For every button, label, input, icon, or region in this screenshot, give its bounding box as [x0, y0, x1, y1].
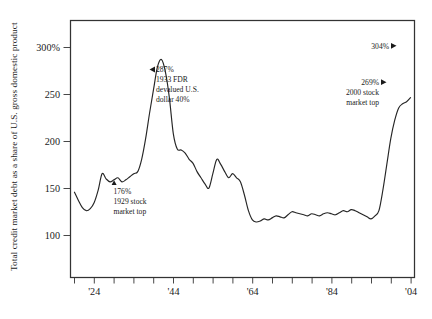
- x-tick-label-64: '64: [247, 286, 259, 297]
- annot-1929-line-0: 176%: [114, 187, 132, 196]
- y-tick-label-200: 200: [45, 136, 60, 147]
- annot-1933-line-3: dollar 40%: [156, 95, 190, 104]
- annot-2000-line-2: market top: [346, 98, 379, 107]
- chart-container: Total credit market debt as a share of U…: [0, 0, 432, 319]
- annot-2000-line-1: 2000 stock: [346, 88, 379, 97]
- x-tick-label-84: '84: [326, 286, 338, 297]
- y-tick-label-150: 150: [45, 183, 60, 194]
- y-tick-label-250: 250: [45, 89, 60, 100]
- annot-2000-line-0: 269%: [361, 78, 379, 87]
- x-axis-labels: '24 '44 '64 '84 '04: [88, 286, 417, 297]
- x-tick-label-24: '24: [88, 286, 100, 297]
- y-tick-label-300: 300%: [36, 42, 60, 53]
- arrow-right-icon: [381, 79, 387, 85]
- y-tick-label-100: 100: [45, 230, 60, 241]
- annot-2004-line-0: 304%: [371, 42, 389, 51]
- chart-svg: Total credit market debt as a share of U…: [0, 0, 432, 319]
- annot-1933-line-2: devalued U.S.: [156, 85, 199, 94]
- annotation-2004: 304%: [371, 42, 396, 51]
- x-tick-label-44: '44: [167, 286, 179, 297]
- x-tick-label-04: '04: [405, 286, 417, 297]
- annot-1929-line-2: market top: [114, 207, 147, 216]
- x-axis-ticks: [75, 278, 412, 284]
- annot-1933-line-1: 1933 FDR: [156, 75, 189, 84]
- annot-1929-line-1: 1929 stock: [114, 197, 147, 206]
- y-axis-title: Total credit market debt as a share of U…: [9, 22, 19, 271]
- arrow-left-icon: [150, 67, 156, 73]
- arrow-right-icon-2: [391, 43, 397, 49]
- annot-1933-line-0: 287%: [156, 65, 174, 74]
- annotation-1933-fdr: 287% 1933 FDR devalued U.S. dollar 40%: [150, 65, 199, 104]
- y-axis-ticks: 300% 250 200 150 100: [36, 42, 70, 241]
- annotation-1929: 176% 1929 stock market top: [112, 180, 147, 215]
- plot-frame: [71, 21, 415, 278]
- annotation-2000: 269% 2000 stock market top: [346, 78, 387, 107]
